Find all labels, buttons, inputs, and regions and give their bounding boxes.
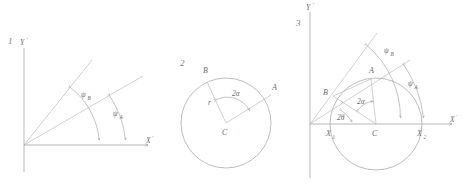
panel-3-angle-2alpha: 2α bbox=[357, 97, 366, 106]
panel-3-psi-b-subscript: B bbox=[391, 51, 395, 57]
panel-2-angle-2alpha: 2α bbox=[232, 89, 241, 98]
panel-3-angle-2theta: 2θ bbox=[337, 113, 345, 122]
panel-1-y-axis-label: Y bbox=[20, 38, 25, 47]
panel-2-number: 2 bbox=[180, 58, 185, 68]
panel-3-intercept-x2-subscript: 2 bbox=[424, 134, 427, 140]
panel-3-arc-psi-b bbox=[367, 45, 401, 118]
panel-3-number: 3 bbox=[295, 18, 301, 28]
panel-1: 1 Y ' X ' ψ B ψ A bbox=[8, 36, 154, 172]
panel-2: 2 2α r B A C bbox=[180, 58, 277, 168]
panel-2-radius-label: r bbox=[208, 98, 212, 107]
panel-1-psi-b-subscript: B bbox=[88, 95, 92, 101]
panel-1-x-axis-label: X bbox=[145, 136, 151, 145]
panel-1-ray-a bbox=[24, 76, 143, 145]
panel-2-point-b-label: B bbox=[203, 66, 208, 75]
panel-3-y-axis-label: Y bbox=[306, 3, 311, 12]
panel-3-psi-a-subscript: A bbox=[414, 84, 419, 90]
panel-2-point-c-label: C bbox=[222, 128, 228, 137]
panel-2-arc-2alpha bbox=[216, 97, 249, 110]
panel-3-psi-a-symbol: ψ bbox=[408, 79, 413, 88]
panel-1-number: 1 bbox=[8, 36, 13, 46]
panel-3: 3 Y ' X ' 2α 2θ ψ B ψ A bbox=[295, 2, 458, 178]
panel-3-x-axis-label: X bbox=[449, 115, 455, 124]
panel-3-psi-b-symbol: ψ bbox=[384, 46, 389, 55]
diagram-svg: 1 Y ' X ' ψ B ψ A 2 2α r bbox=[0, 0, 467, 187]
panel-3-chord-ba bbox=[333, 79, 371, 96]
panel-3-point-b-label: B bbox=[323, 88, 328, 97]
panel-3-intercept-x2-symbol: X bbox=[416, 129, 423, 138]
panel-1-psi-b-symbol: ψ bbox=[81, 90, 86, 99]
panel-3-arc-psi-a bbox=[404, 65, 424, 118]
panel-1-psi-a-symbol: ψ bbox=[113, 109, 118, 118]
panel-3-x-axis-prime: ' bbox=[456, 114, 458, 120]
panel-2-point-a-label: A bbox=[271, 83, 277, 92]
figure-canvas: 1 Y ' X ' ψ B ψ A 2 2α r bbox=[0, 0, 467, 187]
panel-3-y-axis-prime: ' bbox=[313, 2, 315, 8]
panel-1-y-axis-prime: ' bbox=[27, 37, 29, 43]
panel-3-ray-b bbox=[310, 33, 377, 124]
panel-1-psi-a-subscript: A bbox=[119, 114, 124, 120]
panel-1-x-axis-prime: ' bbox=[152, 135, 154, 141]
panel-1-ray-b bbox=[24, 60, 92, 145]
panel-3-point-a-label: A bbox=[368, 66, 374, 75]
panel-3-point-c-label: C bbox=[372, 129, 378, 138]
panel-3-intercept-x1-subscript: 1 bbox=[333, 134, 336, 140]
